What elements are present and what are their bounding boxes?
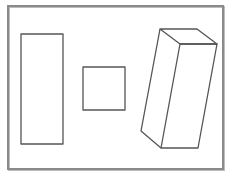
- prism-side-edge: [141, 29, 161, 148]
- tall-rectangle: [21, 34, 63, 144]
- rectangular-prism: [141, 29, 217, 148]
- shapes-canvas: [0, 0, 232, 176]
- prism-front-face: [161, 44, 217, 148]
- prism-top-face: [160, 29, 217, 44]
- square: [83, 67, 125, 110]
